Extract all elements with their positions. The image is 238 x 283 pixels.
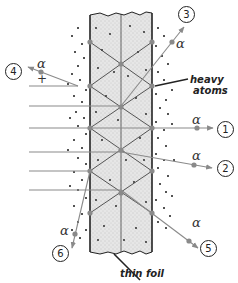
- heavy-atoms-label-line2: atoms: [190, 85, 228, 96]
- scattering-diagram: [0, 0, 238, 283]
- track-4: [28, 67, 78, 86]
- particle-number-3: 3: [178, 6, 195, 23]
- particle-number-2: 2: [217, 160, 234, 177]
- heavy-atoms-pointer: [155, 79, 188, 86]
- alpha-label-2: α: [192, 148, 201, 163]
- particle-number-4: 4: [5, 63, 22, 80]
- thin-foil-label: thin foil: [120, 268, 164, 279]
- alpha-label-1: α: [192, 112, 201, 127]
- particle-number-5: 5: [200, 240, 217, 257]
- particle-number-1: 1: [217, 121, 234, 138]
- alpha-label-5: α: [192, 215, 201, 230]
- alpha-label-6: α: [60, 223, 69, 238]
- particle-number-6: 6: [52, 245, 69, 262]
- heavy-atoms-label-line1: heavy: [190, 74, 228, 85]
- heavy-atoms-label: heavy atoms: [190, 74, 228, 96]
- alpha-label-3: α: [176, 36, 185, 51]
- positive-charge-label: +: [37, 72, 47, 86]
- alpha-label-4: α: [37, 56, 46, 71]
